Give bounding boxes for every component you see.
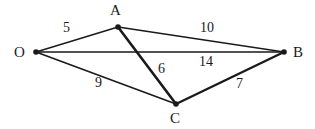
- edge-weight-o-a: 5: [63, 21, 70, 35]
- vertex-label-a: A: [110, 3, 121, 18]
- edge-weight-c-b: 7: [236, 77, 243, 91]
- edge-weight-o-b: 14: [199, 55, 213, 69]
- weighted-graph-figure: OABC 51014697: [0, 0, 315, 129]
- graph-edge-c-b: [176, 52, 284, 104]
- graph-vertex-o: [33, 49, 39, 55]
- vertex-label-b: B: [293, 45, 303, 60]
- edge-weight-a-c: 6: [158, 62, 165, 76]
- edge-weight-a-b: 10: [200, 21, 214, 35]
- graph-vertex-a: [115, 24, 121, 30]
- vertex-label-o: O: [14, 45, 25, 60]
- graph-edge-o-a: [36, 27, 118, 52]
- vertex-label-c: C: [170, 111, 180, 126]
- edge-weight-o-c: 9: [95, 76, 102, 90]
- graph-vertex-b: [281, 49, 287, 55]
- graph-vertex-c: [173, 101, 179, 107]
